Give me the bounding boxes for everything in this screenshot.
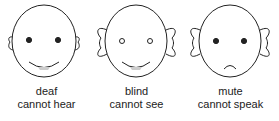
blind-face bbox=[98, 5, 175, 77]
head-outline bbox=[199, 5, 261, 77]
head-outline bbox=[105, 5, 167, 77]
deaf-title: deaf bbox=[0, 85, 93, 98]
right-eye-icon bbox=[55, 37, 60, 42]
mute-caption: cannot speak bbox=[184, 98, 277, 111]
deaf-face bbox=[9, 5, 79, 77]
left-eye-icon bbox=[213, 38, 218, 43]
blind-caption: cannot see bbox=[90, 98, 183, 111]
blind-label: blind cannot see bbox=[90, 85, 183, 111]
mute-title: mute bbox=[184, 85, 277, 98]
right-eye-icon bbox=[241, 38, 246, 43]
left-eye-icon bbox=[26, 37, 31, 42]
head-outline bbox=[12, 5, 76, 77]
deaf-label: deaf cannot hear bbox=[0, 85, 93, 111]
blind-title: blind bbox=[90, 85, 183, 98]
deaf-caption: cannot hear bbox=[0, 98, 93, 111]
mute-face bbox=[191, 5, 269, 77]
mute-label: mute cannot speak bbox=[184, 85, 277, 111]
